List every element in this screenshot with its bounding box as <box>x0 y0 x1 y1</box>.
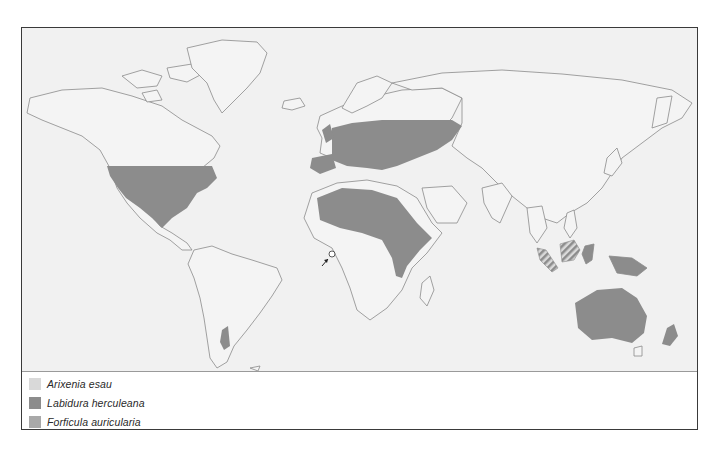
range-borneo <box>560 240 580 262</box>
range-eurasia <box>332 120 462 170</box>
world-map <box>22 28 697 372</box>
legend-item-forficula: Forficula auricularia <box>29 415 141 429</box>
world-map-svg <box>22 28 697 371</box>
range-australia <box>575 288 647 343</box>
legend-item-labidura: Labidura herculeana <box>29 396 145 410</box>
legend: Arixenia esau Labidura herculeana Forfic… <box>22 372 697 430</box>
legend-label: Forficula auricularia <box>47 416 141 428</box>
range-sumatra <box>537 248 558 272</box>
south-america <box>188 246 282 368</box>
map-figure: Arixenia esau Labidura herculeana Forfic… <box>21 27 698 430</box>
legend-item-arixenia: Arixenia esau <box>29 377 112 391</box>
swatch-labidura <box>29 397 41 409</box>
island-marker-circle <box>329 251 335 257</box>
greenland <box>187 40 267 113</box>
legend-label: Labidura herculeana <box>47 397 145 409</box>
marker <box>322 251 335 266</box>
legend-label: Arixenia esau <box>47 378 112 390</box>
swatch-arixenia <box>29 378 41 390</box>
swatch-forficula <box>29 416 41 428</box>
